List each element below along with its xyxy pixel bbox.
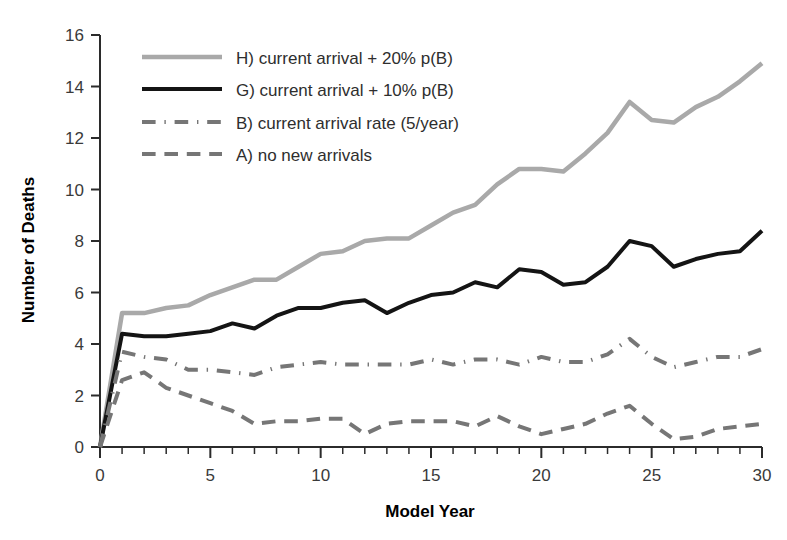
y-tick-label: 2 — [75, 387, 84, 406]
y-tick-label: 0 — [75, 438, 84, 457]
legend-label-A: A) no new arrivals — [236, 146, 372, 165]
x-tick-label: 15 — [422, 466, 441, 485]
x-tick-label: 25 — [642, 466, 661, 485]
y-tick-label: 6 — [75, 284, 84, 303]
y-tick-label: 16 — [65, 26, 84, 45]
x-tick-label: 5 — [206, 466, 215, 485]
y-tick-label: 8 — [75, 232, 84, 251]
legend-label-B: B) current arrival rate (5/year) — [236, 114, 459, 133]
y-tick-label: 10 — [65, 181, 84, 200]
y-tick-label: 4 — [75, 335, 84, 354]
y-axis-title: Number of Deaths — [19, 177, 38, 323]
legend-label-H: H) current arrival + 20% p(B) — [236, 49, 453, 68]
x-tick-label: 30 — [753, 466, 772, 485]
legend-label-G: G) current arrival + 10% p(B) — [236, 81, 454, 100]
x-tick-label: 0 — [95, 466, 104, 485]
y-tick-label: 14 — [65, 78, 84, 97]
x-tick-label: 10 — [311, 466, 330, 485]
y-tick-label: 12 — [65, 129, 84, 148]
chart-figure: 0246810121416 051015202530 Number of Dea… — [0, 0, 787, 540]
x-tick-label: 20 — [532, 466, 551, 485]
x-axis-title: Model Year — [385, 502, 475, 521]
